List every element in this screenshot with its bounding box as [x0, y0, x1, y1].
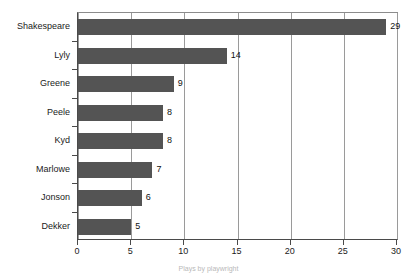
value-label: 6: [146, 192, 151, 202]
value-label: 5: [135, 221, 140, 231]
value-tick-label: 0: [74, 246, 79, 257]
category-tick: [72, 98, 77, 99]
category-label: Dekker: [0, 221, 70, 231]
category-label: Peele: [0, 107, 70, 117]
category-label: Shakespeare: [0, 21, 70, 31]
value-label: 14: [231, 50, 241, 60]
category-tick: [72, 183, 77, 184]
value-tick-label: 5: [128, 246, 133, 257]
category-label: Jonson: [0, 192, 70, 202]
value-label: 7: [156, 164, 161, 174]
value-tick: [237, 240, 238, 245]
value-tick-label: 25: [338, 246, 348, 257]
category-tick: [72, 126, 77, 127]
chart-caption: Plays by playwright: [0, 265, 417, 274]
value-tick-label: 10: [178, 246, 188, 257]
value-tick: [396, 240, 397, 245]
value-label: 8: [167, 135, 172, 145]
value-tick: [130, 240, 131, 245]
category-tick: [72, 69, 77, 70]
category-label: Lyly: [0, 50, 70, 60]
value-axis-labels: 051015202530: [77, 246, 398, 258]
value-tick-label: 30: [391, 246, 401, 257]
category-tick: [72, 155, 77, 156]
value-label: 29: [390, 21, 400, 31]
value-label: 9: [178, 78, 183, 88]
value-tick: [183, 240, 184, 245]
value-label: 8: [167, 107, 172, 117]
category-tick: [72, 41, 77, 42]
category-label: Greene: [0, 78, 70, 88]
category-label: Kyd: [0, 135, 70, 145]
value-tick-label: 15: [231, 246, 241, 257]
category-label: Marlowe: [0, 164, 70, 174]
value-tick: [77, 240, 78, 245]
value-tick: [290, 240, 291, 245]
category-tick: [72, 212, 77, 213]
value-tick-label: 20: [285, 246, 295, 257]
bar-chart: ShakespeareLylyGreenePeeleKydMarloweJons…: [0, 0, 417, 274]
category-axis-labels: ShakespeareLylyGreenePeeleKydMarloweJons…: [0, 0, 74, 240]
value-tick: [343, 240, 344, 245]
bar-value-labels: 2914988765: [77, 12, 417, 240]
